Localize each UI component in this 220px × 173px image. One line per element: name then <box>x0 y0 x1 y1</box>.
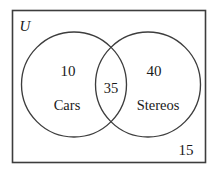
cars-only-count: 10 <box>61 63 76 79</box>
stereos-only-count: 40 <box>147 63 162 79</box>
venn-diagram-figure: U 10 Cars 35 40 Stereos 15 <box>0 0 220 173</box>
cars-set-label: Cars <box>54 97 81 113</box>
stereos-set-label: Stereos <box>137 97 180 113</box>
universe-label: U <box>20 18 32 34</box>
intersection-count: 35 <box>104 80 119 96</box>
outside-count: 15 <box>179 142 194 158</box>
